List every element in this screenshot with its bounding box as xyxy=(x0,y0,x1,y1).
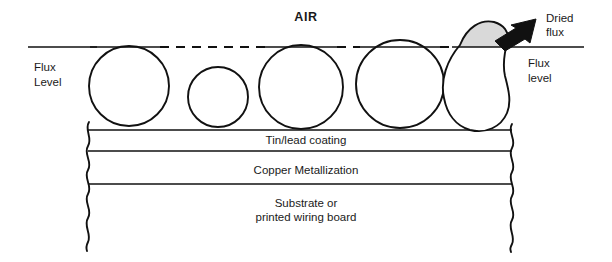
flux-level-right-line1: Flux xyxy=(528,57,550,69)
air-label: AIR xyxy=(294,10,317,24)
callout-label-line1: Dried xyxy=(546,12,573,24)
layer-label-substrate-line1: Substrate or xyxy=(275,197,338,209)
solder-ball-1 xyxy=(80,46,180,137)
solder-flux-diagram: AIR Tin/lead coating Copper Metallizatio… xyxy=(0,0,612,262)
flux-level-left-line2: Level xyxy=(34,76,62,88)
ball-4-outline xyxy=(356,40,444,128)
wavy-break-icon-right xyxy=(510,124,513,252)
diagram-canvas: AIR Tin/lead coating Copper Metallizatio… xyxy=(0,0,612,262)
flux-level-label-left: Flux Level xyxy=(34,61,62,88)
layer-copper: Copper Metallization xyxy=(88,164,512,184)
board-stack: Tin/lead coating Copper Metallization Su… xyxy=(86,122,513,252)
flux-level-label-right: Flux level xyxy=(528,57,552,84)
ball-2-outline xyxy=(188,67,248,127)
flux-level-right-line2: level xyxy=(528,72,552,84)
solder-ball-3 xyxy=(250,45,355,142)
layer-tin-lead: Tin/lead coating xyxy=(88,130,512,151)
layer-label-substrate-line2: printed wiring board xyxy=(255,211,356,223)
callout-label-line2: flux xyxy=(546,26,564,38)
layer-label-tin-lead: Tin/lead coating xyxy=(266,134,347,146)
wavy-break-icon-left xyxy=(86,122,89,251)
layer-label-copper: Copper Metallization xyxy=(254,164,359,176)
layer-substrate: Substrate or printed wiring board xyxy=(255,197,356,223)
solder-ball-2 xyxy=(188,67,248,127)
flux-level-left-line1: Flux xyxy=(34,61,56,73)
ball-3-outline xyxy=(259,45,343,129)
ball-1-outline xyxy=(89,46,169,126)
